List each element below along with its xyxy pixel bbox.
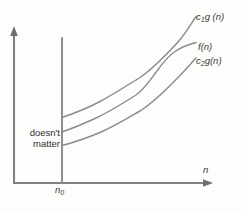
- curve-lower-c2g: [62, 58, 196, 146]
- curve-label-lower: c2g(n): [196, 56, 222, 68]
- x-axis-label: n: [203, 165, 208, 176]
- threshold-label-n0: n0: [55, 185, 64, 197]
- doesnt-matter-annotation: doesn't matter: [14, 128, 60, 149]
- curve-label-middle: f(n): [198, 42, 212, 53]
- curve-label-upper: c1g (n): [196, 12, 224, 24]
- curve-upper-c1g: [62, 17, 196, 118]
- curve-label-upper-suffix: g (n): [205, 11, 225, 22]
- y-axis: [10, 26, 18, 183]
- curve-label-lower-suffix: g(n): [205, 55, 222, 66]
- threshold-label-n0-subscript: 0: [60, 189, 64, 196]
- x-axis-arrowhead: [203, 179, 213, 187]
- y-axis-arrowhead: [10, 26, 18, 36]
- figure-canvas: [0, 0, 242, 213]
- doesnt-matter-line-2: matter: [14, 139, 60, 150]
- curve-middle-fn: [62, 43, 196, 133]
- x-axis: [14, 179, 213, 187]
- big-theta-notation-figure: c1g (n) f(n) c2g(n) doesn't matter n0 n: [0, 0, 242, 213]
